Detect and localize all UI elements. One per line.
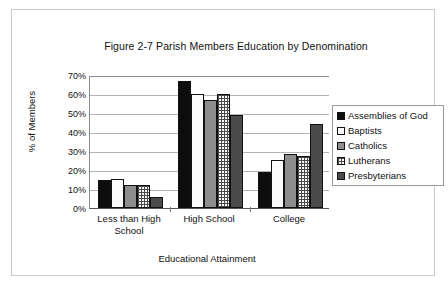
bar[interactable] — [310, 124, 323, 208]
legend-item[interactable]: Presbyterians — [337, 170, 440, 181]
legend-item[interactable]: Assemblies of God — [337, 110, 440, 121]
chart-title: Figure 2-7 Parish Members Education by D… — [12, 40, 448, 52]
x-axis-category-label: High School — [169, 213, 249, 225]
legend-swatch-icon — [337, 172, 345, 180]
bar-group — [90, 77, 170, 208]
bar[interactable] — [204, 100, 217, 208]
y-axis-tick-label: 30% — [68, 148, 86, 157]
x-axis-title: Educational Attainment — [72, 253, 342, 264]
legend-item-label: Baptists — [348, 126, 382, 136]
y-axis-tick-label: 10% — [68, 186, 86, 195]
bar-group — [170, 77, 250, 208]
bar[interactable] — [284, 154, 297, 208]
x-axis-category-label: Less than High School — [89, 213, 169, 237]
y-axis-tick-label: 40% — [68, 129, 86, 138]
bar[interactable] — [271, 160, 284, 208]
chart-legend: Assemblies of GodBaptistsCatholicsLuther… — [332, 105, 444, 186]
legend-swatch-icon — [337, 157, 345, 165]
y-axis-tick-label: 70% — [68, 72, 86, 81]
legend-item[interactable]: Lutherans — [337, 155, 440, 166]
x-axis-tick-mark — [250, 207, 251, 212]
bar[interactable] — [137, 185, 150, 208]
legend-item-label: Lutherans — [348, 156, 390, 166]
bar[interactable] — [98, 180, 111, 208]
legend-item[interactable]: Catholics — [337, 140, 440, 151]
figure-page: Figure 2-7 Parish Members Education by D… — [0, 0, 448, 292]
x-axis-tick-labels: Less than High SchoolHigh SchoolCollege — [89, 213, 329, 247]
bar[interactable] — [217, 94, 230, 208]
figure-frame: Figure 2-7 Parish Members Education by D… — [11, 9, 435, 276]
y-axis-tick-label: 60% — [68, 91, 86, 100]
legend-item-label: Presbyterians — [348, 171, 406, 181]
legend-item-label: Assemblies of God — [348, 111, 428, 121]
x-axis-category-label: College — [249, 213, 329, 225]
legend-item[interactable]: Baptists — [337, 125, 440, 136]
y-axis-title: % of Members — [26, 77, 37, 167]
bar[interactable] — [111, 179, 124, 208]
y-axis-tick-labels: 0%10%20%30%40%50%60%70% — [52, 70, 86, 215]
legend-swatch-icon — [337, 112, 345, 120]
bar[interactable] — [150, 197, 163, 208]
y-axis-tick-label: 50% — [68, 110, 86, 119]
bar[interactable] — [178, 81, 191, 208]
plot-area — [89, 76, 329, 209]
bar[interactable] — [258, 172, 271, 208]
bar-group — [250, 77, 330, 208]
legend-swatch-icon — [337, 127, 345, 135]
bar[interactable] — [230, 115, 243, 208]
bar[interactable] — [124, 185, 137, 208]
y-axis-tick-label: 20% — [68, 167, 86, 176]
y-axis-tick-label: 0% — [73, 205, 86, 214]
legend-item-label: Catholics — [348, 141, 387, 151]
legend-swatch-icon — [337, 142, 345, 150]
bar[interactable] — [297, 156, 310, 208]
bar[interactable] — [191, 94, 204, 208]
x-axis-tick-mark — [170, 207, 171, 212]
